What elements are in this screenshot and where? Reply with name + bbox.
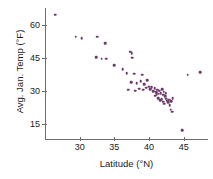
y-axis-title: Avg. Jan. Temp (°F) — [14, 12, 25, 132]
data-point — [164, 92, 167, 95]
data-point — [130, 81, 133, 84]
data-point — [171, 97, 174, 100]
data-point — [171, 110, 174, 113]
data-point — [199, 71, 202, 74]
x-axis-title: Latitude (°N) — [45, 158, 208, 169]
data-point — [169, 104, 172, 107]
data-point — [155, 93, 158, 96]
data-point — [80, 37, 83, 40]
data-point — [135, 82, 138, 85]
data-point — [54, 13, 57, 16]
data-point — [121, 68, 124, 71]
data-point — [139, 80, 142, 83]
data-point — [95, 56, 98, 59]
data-points — [0, 0, 213, 179]
data-point — [141, 73, 144, 76]
data-point — [181, 129, 184, 132]
data-point — [113, 64, 116, 67]
data-point — [127, 89, 130, 92]
data-point — [105, 57, 108, 60]
data-point — [131, 56, 134, 59]
data-point — [163, 102, 166, 105]
data-point — [74, 36, 77, 39]
data-point — [133, 72, 136, 75]
data-point — [134, 89, 137, 92]
data-point — [101, 57, 104, 60]
data-point — [187, 73, 190, 76]
data-point — [96, 36, 99, 39]
data-point — [130, 52, 133, 55]
data-point — [104, 42, 107, 45]
data-point — [146, 79, 149, 82]
data-point — [170, 100, 173, 103]
data-point — [138, 87, 141, 90]
data-point — [126, 72, 129, 75]
data-point — [143, 83, 146, 86]
scatter-plot: 3035404515304560 Latitude (°N) Avg. Jan.… — [0, 0, 213, 179]
